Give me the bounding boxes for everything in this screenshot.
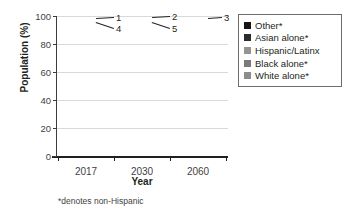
y-axis-tick-mark (53, 44, 57, 45)
legend-swatch-icon (244, 72, 251, 79)
y-axis-tick-label: 80 (25, 39, 51, 50)
stacked-bar-chart: Population (%) 0204060801002017203020604… (0, 0, 349, 217)
y-axis-tick-mark (53, 72, 57, 73)
chart-legend: Other*Asian alone*Hispanic/LatinxBlack a… (238, 14, 342, 87)
legend-item-asian-alone-[interactable]: Asian alone* (244, 32, 337, 45)
y-axis-tick-label: 20 (25, 123, 51, 134)
y-axis-tick-label: 40 (25, 95, 51, 106)
legend-swatch-icon (244, 60, 251, 67)
callout-asian-alone--2017: 4 (116, 24, 121, 34)
y-axis-tick-mark (53, 16, 57, 17)
callout-leader-line (96, 17, 114, 19)
legend-item-other-[interactable]: Other* (244, 19, 337, 32)
callout-leader-line (208, 17, 222, 19)
legend-label: Black alone* (255, 58, 308, 69)
callout-asian-alone--2030: 5 (172, 24, 177, 34)
callout-other--2060: 3 (224, 13, 229, 23)
bar-2030[interactable] (130, 16, 154, 156)
x-axis-tick-mark (114, 156, 115, 161)
legend-item-black-alone-[interactable]: Black alone* (244, 57, 337, 70)
y-axis-tick-mark (53, 128, 57, 129)
y-axis-line (56, 16, 57, 157)
bar-2060[interactable] (186, 16, 210, 156)
y-axis-title: Population (%) (19, 8, 30, 108)
chart-footnote: *denotes non-Hispanic (58, 196, 144, 206)
legend-label: Asian alone* (255, 32, 308, 43)
legend-label: White alone* (255, 70, 309, 81)
legend-label: Other* (255, 20, 282, 31)
legend-swatch-icon (244, 34, 251, 41)
legend-swatch-icon (244, 47, 251, 54)
callout-other--2030: 2 (172, 12, 177, 22)
y-axis-tick-label: 100 (25, 11, 51, 22)
callout-leader-line (96, 22, 114, 29)
x-axis-tick-mark (226, 156, 227, 161)
callout-leader-line (152, 22, 170, 29)
legend-label: Hispanic/Latinx (255, 45, 319, 56)
legend-swatch-icon (244, 22, 251, 29)
legend-item-white-alone-[interactable]: White alone* (244, 69, 337, 82)
bar-2017[interactable] (74, 16, 98, 156)
callout-leader-line (152, 16, 170, 18)
y-axis-tick-mark (53, 100, 57, 101)
x-axis-title: Year (56, 176, 228, 187)
legend-item-hispanic-latinx[interactable]: Hispanic/Latinx (244, 44, 337, 57)
x-axis-tick-mark (58, 156, 59, 161)
callout-other--2017: 1 (116, 13, 121, 23)
x-axis-line (52, 156, 228, 158)
y-axis-tick-label: 60 (25, 67, 51, 78)
x-axis-tick-mark (170, 156, 171, 161)
y-axis-tick-label: 0 (25, 151, 51, 162)
plot-area: 02040608010020172030206041523 (56, 16, 228, 156)
y-axis-tick-mark (53, 156, 57, 157)
